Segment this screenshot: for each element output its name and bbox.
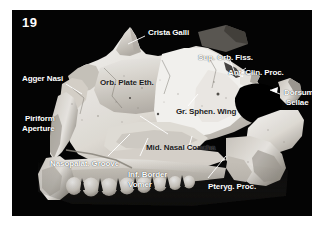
label-piriform: Piriform — [25, 114, 55, 124]
label-orb-plate-eth: Orb. Plate Eth. — [100, 78, 154, 88]
label-nasopalat-groove: Nasopalat. Groove — [50, 159, 119, 169]
photo-veil — [12, 10, 312, 216]
label-gr-sphen-wing: Gr. Sphen. Wing — [176, 107, 236, 117]
label-mid-nasal-concha: Mid. Nasal Concha — [146, 143, 215, 153]
label-aperture: Aperture — [22, 124, 55, 134]
label-crista-galli: Crista Galli — [148, 28, 189, 38]
label-ant-clin-proc: Ant. Clin. Proc. — [228, 68, 284, 78]
figure-container: 19 Crista Galli Sup. Orb. Fiss. Ant. Cli… — [0, 0, 325, 233]
label-vomer: Vomer — [128, 180, 152, 190]
skull-sagittal-section-image — [12, 10, 312, 216]
label-pteryg-proc: Pteryg. Proc. — [208, 182, 256, 192]
label-dorsum: Dorsum — [284, 88, 312, 98]
label-inf-border: Inf. Border — [128, 170, 167, 180]
anatomy-photo-plate: 19 Crista Galli Sup. Orb. Fiss. Ant. Cli… — [12, 10, 312, 216]
figure-number: 19 — [22, 16, 37, 29]
label-sup-orb-fiss: Sup. Orb. Fiss. — [198, 53, 253, 63]
label-sellae: Sellae — [286, 98, 309, 108]
label-agger-nasi: Agger Nasi — [22, 74, 63, 84]
